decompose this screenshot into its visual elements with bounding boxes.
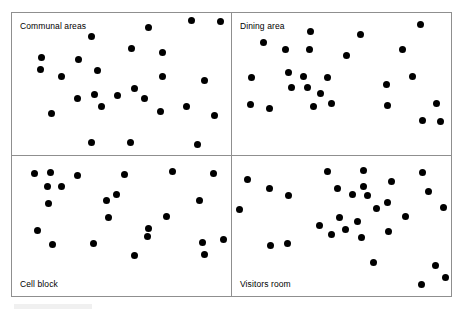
data-point	[128, 45, 135, 52]
data-point	[90, 240, 97, 247]
data-point	[316, 222, 323, 229]
data-point	[370, 259, 377, 266]
data-point	[360, 183, 367, 190]
data-point	[144, 233, 151, 240]
data-point	[383, 81, 390, 88]
data-point	[217, 18, 224, 25]
data-point	[419, 169, 426, 176]
data-point	[385, 228, 392, 235]
data-point	[324, 74, 331, 81]
panel-cell-block: Cell block	[12, 156, 231, 296]
data-point	[306, 46, 313, 53]
data-point	[388, 178, 395, 185]
data-point	[194, 141, 201, 148]
scatter-panel-figure: Communal areas Dining area Cell block Vi…	[0, 0, 465, 315]
data-point	[248, 74, 255, 81]
data-point	[45, 200, 52, 207]
data-point	[324, 168, 331, 175]
data-point	[285, 69, 292, 76]
data-point	[163, 213, 170, 220]
data-point	[159, 73, 166, 80]
data-point	[145, 225, 152, 232]
data-point	[75, 56, 82, 63]
data-point	[360, 167, 367, 174]
panel-label-visitors-room: Visitors room	[240, 279, 291, 289]
panel-dining-area: Dining area	[232, 13, 451, 155]
data-point	[58, 183, 65, 190]
data-point	[288, 84, 295, 91]
scan-artifact	[14, 304, 92, 309]
data-point	[358, 234, 365, 241]
data-point	[425, 188, 432, 195]
data-point	[113, 191, 120, 198]
data-point	[440, 204, 447, 211]
data-point	[260, 39, 267, 46]
data-point	[328, 100, 335, 107]
data-point	[354, 218, 361, 225]
data-point	[418, 281, 425, 288]
data-point	[402, 213, 409, 220]
data-point	[266, 185, 273, 192]
data-point	[94, 67, 101, 74]
data-point	[37, 66, 44, 73]
data-point	[169, 168, 176, 175]
data-point	[442, 274, 449, 281]
data-point	[307, 28, 314, 35]
panel-label-dining-area: Dining area	[240, 21, 285, 31]
data-point	[44, 183, 51, 190]
data-point	[267, 242, 274, 249]
data-point	[247, 101, 254, 108]
data-point	[114, 92, 121, 99]
data-point	[336, 214, 343, 221]
data-point	[399, 46, 406, 53]
data-point	[310, 103, 317, 110]
data-point	[121, 171, 128, 178]
data-point	[266, 105, 273, 112]
data-point	[131, 252, 138, 259]
data-point	[105, 214, 112, 221]
data-point	[159, 49, 166, 56]
data-point	[74, 172, 81, 179]
data-point	[188, 17, 195, 24]
data-point	[49, 241, 56, 248]
data-point	[211, 112, 218, 119]
data-point	[220, 236, 227, 243]
data-point	[343, 52, 350, 59]
data-point	[88, 139, 95, 146]
data-point	[334, 185, 341, 192]
data-point	[201, 251, 208, 258]
data-point	[317, 90, 324, 97]
data-point	[432, 262, 439, 269]
data-point	[364, 192, 371, 199]
data-point	[419, 117, 426, 124]
data-point	[157, 108, 164, 115]
data-point	[409, 73, 416, 80]
data-point	[91, 91, 98, 98]
data-point	[38, 54, 45, 61]
data-point	[357, 31, 364, 38]
data-point	[349, 191, 356, 198]
data-point	[103, 197, 110, 204]
data-point	[201, 77, 208, 84]
data-point	[131, 85, 138, 92]
panel-label-communal-areas: Communal areas	[20, 21, 86, 31]
panel-communal-areas: Communal areas	[12, 13, 231, 155]
data-point	[98, 103, 105, 110]
data-point	[183, 103, 190, 110]
data-point	[284, 240, 291, 247]
data-point	[34, 227, 41, 234]
data-point	[304, 84, 311, 91]
data-point	[328, 231, 335, 238]
panel-grid: Communal areas Dining area Cell block Vi…	[11, 12, 452, 297]
data-point	[300, 73, 307, 80]
data-point	[244, 176, 251, 183]
data-point	[47, 169, 54, 176]
panel-label-cell-block: Cell block	[20, 279, 58, 289]
data-point	[196, 197, 203, 204]
data-point	[48, 110, 55, 117]
data-point	[282, 46, 289, 53]
data-point	[384, 102, 391, 109]
data-point	[285, 192, 292, 199]
data-point	[58, 73, 65, 80]
data-point	[127, 139, 134, 146]
